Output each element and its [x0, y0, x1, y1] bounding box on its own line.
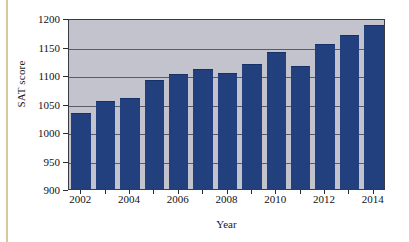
y-tick-label: 1050	[20, 100, 60, 111]
y-tick-label: 1000	[20, 128, 60, 139]
x-tick-label: 2006	[155, 194, 201, 205]
x-tick-label: 2012	[301, 194, 347, 205]
plot-area	[68, 19, 385, 190]
sat-score-bar-chart: SAT score Year 9009501000105011001150120…	[0, 0, 409, 242]
bar	[193, 69, 213, 189]
x-tick-label: 2002	[57, 194, 103, 205]
bar	[315, 44, 335, 189]
bar	[242, 64, 262, 189]
x-tick-label: 2010	[252, 194, 298, 205]
bar	[291, 66, 311, 189]
y-tick-mark	[63, 190, 68, 191]
bar	[145, 80, 165, 189]
y-tick-label: 950	[20, 157, 60, 168]
y-tick-label: 900	[20, 185, 60, 196]
y-tick-label: 1150	[20, 43, 60, 54]
bar	[364, 25, 384, 189]
bar	[267, 52, 287, 189]
x-tick-label: 2008	[204, 194, 250, 205]
bar	[340, 35, 360, 189]
x-tick-label: 2014	[350, 194, 396, 205]
y-tick-label: 1100	[20, 71, 60, 82]
x-tick-label: 2004	[106, 194, 152, 205]
bar	[120, 98, 140, 189]
x-axis-title: Year	[68, 218, 385, 230]
y-tick-label: 1200	[20, 14, 60, 25]
bar	[169, 74, 189, 189]
bar	[218, 73, 238, 189]
bar	[71, 113, 91, 189]
bar	[96, 101, 116, 189]
bars-layer	[69, 20, 384, 189]
